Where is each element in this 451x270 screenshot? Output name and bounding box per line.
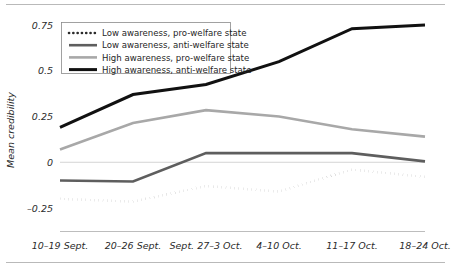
x-tick-label: 18–24 Oct. bbox=[399, 240, 450, 251]
y-tick-label: 0.5 bbox=[38, 65, 53, 76]
y-tick-label: –0.25 bbox=[27, 203, 53, 214]
y-axis-title: Mean credibility bbox=[5, 92, 16, 168]
chart-legend: Low awareness, pro-welfare stateLow awar… bbox=[62, 23, 252, 75]
x-tick-label: Sept. 27–3 Oct. bbox=[169, 240, 242, 251]
x-tick-label: 4–10 Oct. bbox=[256, 240, 301, 251]
series-line-1 bbox=[60, 153, 425, 181]
y-tick-label: 0.25 bbox=[32, 111, 53, 122]
top-divider-rule bbox=[6, 4, 445, 5]
legend-label-1: Low awareness, anti-welfare state bbox=[102, 40, 249, 50]
x-axis-tick-labels: 10–19 Sept.20–26 Sept.Sept. 27–3 Oct.4–1… bbox=[32, 240, 451, 251]
bottom-divider-rule bbox=[6, 262, 445, 263]
x-tick-label: 20–26 Sept. bbox=[105, 240, 162, 251]
y-axis-tick-labels: 0.750.50.250–0.25 bbox=[27, 20, 53, 214]
chart-figure: 0.750.50.250–0.25 Mean credibility Low a… bbox=[0, 0, 451, 270]
y-tick-label: 0 bbox=[47, 157, 53, 168]
series-line-0 bbox=[60, 170, 425, 202]
legend-label-2: High awareness, pro-welfare state bbox=[102, 53, 249, 63]
legend-label-0: Low awareness, pro-welfare state bbox=[102, 28, 246, 38]
legend-label-3: High awareness, anti-welfare state bbox=[102, 65, 252, 75]
y-tick-label: 0.75 bbox=[32, 20, 53, 31]
x-tick-label: 11–17 Oct. bbox=[326, 240, 377, 251]
series-line-2 bbox=[60, 110, 425, 149]
x-tick-label: 10–19 Sept. bbox=[32, 240, 89, 251]
line-chart: 0.750.50.250–0.25 Mean credibility Low a… bbox=[0, 0, 451, 270]
